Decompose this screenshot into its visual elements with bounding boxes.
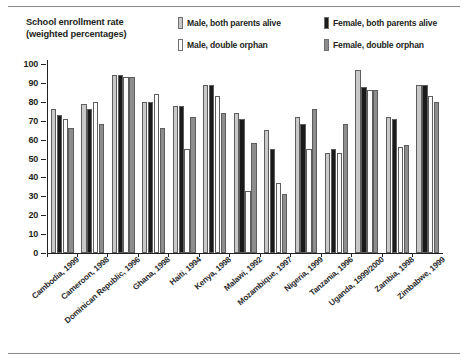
legend-label-male-double-orphan: Male, double orphan bbox=[187, 40, 268, 50]
y-axis-tick-label: 40 bbox=[28, 172, 38, 182]
legend-item-female-double-orphan: Female, double orphan bbox=[324, 39, 424, 51]
bar bbox=[112, 75, 117, 253]
legend-swatch-female-double-orphan bbox=[324, 39, 329, 51]
bar bbox=[184, 149, 189, 253]
bar bbox=[373, 90, 378, 253]
bar bbox=[282, 194, 287, 253]
bar-group bbox=[382, 64, 412, 253]
y-axis-tick-label: 50 bbox=[28, 154, 38, 164]
bar-groups bbox=[47, 64, 443, 253]
y-axis-tick bbox=[41, 121, 46, 122]
bar bbox=[99, 124, 104, 253]
bar bbox=[300, 124, 305, 253]
bar bbox=[325, 153, 330, 253]
chart-title-line-2: (weighted percentages) bbox=[26, 28, 176, 40]
bar bbox=[386, 117, 391, 253]
y-axis-tick-label: 10 bbox=[28, 229, 38, 239]
bar bbox=[173, 106, 178, 253]
x-axis-label: Mozambique, 1997 bbox=[236, 255, 294, 307]
y-axis-tick-label: 0 bbox=[33, 248, 38, 258]
legend-swatch-female-both-parents-alive bbox=[324, 17, 329, 29]
bar-group bbox=[47, 64, 77, 253]
bar bbox=[392, 119, 397, 253]
bar bbox=[295, 117, 300, 253]
bar bbox=[148, 102, 153, 253]
bar bbox=[276, 183, 281, 253]
y-axis-tick-label: 60 bbox=[28, 135, 38, 145]
bar bbox=[234, 113, 239, 253]
x-axis-label: Uganda, 1999/2000 bbox=[327, 255, 386, 308]
bar bbox=[434, 102, 439, 253]
y-axis-tick bbox=[41, 215, 46, 216]
bar bbox=[306, 149, 311, 253]
bottom-divider-rule bbox=[8, 353, 460, 354]
y-axis-tick bbox=[41, 234, 46, 235]
legend-label-female-both-parents-alive: Female, both parents alive bbox=[333, 18, 437, 28]
bar-group bbox=[413, 64, 443, 253]
y-axis-tick-label: 90 bbox=[28, 78, 38, 88]
bar bbox=[215, 96, 220, 253]
y-axis-tick-label: 100 bbox=[24, 59, 38, 69]
bar bbox=[312, 109, 317, 253]
top-divider-rule bbox=[8, 6, 460, 7]
bar bbox=[361, 87, 366, 253]
bar bbox=[355, 70, 360, 253]
bar bbox=[142, 102, 147, 253]
bar-group bbox=[321, 64, 351, 253]
bar bbox=[123, 77, 128, 253]
legend-label-female-double-orphan: Female, double orphan bbox=[333, 40, 424, 50]
bar-group bbox=[169, 64, 199, 253]
bar-group bbox=[291, 64, 321, 253]
bar-group bbox=[260, 64, 290, 253]
bar bbox=[160, 128, 165, 253]
bar bbox=[68, 128, 73, 253]
bar bbox=[57, 115, 62, 253]
bar bbox=[203, 85, 208, 253]
bar bbox=[428, 96, 433, 253]
bar bbox=[404, 145, 409, 253]
x-axis-labels: Cambodia, 1999Cameroon, 1998Dominican Re… bbox=[47, 255, 443, 321]
bar bbox=[209, 85, 214, 253]
bar bbox=[81, 104, 86, 253]
y-axis-tick bbox=[41, 177, 46, 178]
bar bbox=[63, 119, 68, 253]
bar bbox=[398, 147, 403, 253]
y-axis-tick bbox=[41, 64, 46, 65]
legend-item-male-double-orphan: Male, double orphan bbox=[178, 39, 268, 51]
legend-swatch-male-both-parents-alive bbox=[178, 17, 183, 29]
legend-swatch-male-double-orphan bbox=[178, 39, 183, 51]
bar bbox=[129, 77, 134, 253]
plot-area: 0102030405060708090100 bbox=[47, 64, 443, 254]
bar-group bbox=[138, 64, 168, 253]
legend-label-male-both-parents-alive: Male, both parents alive bbox=[187, 18, 281, 28]
chart-title-line-1: School enrollment rate bbox=[26, 16, 176, 28]
bar bbox=[51, 109, 56, 253]
bar bbox=[190, 117, 195, 253]
bar bbox=[367, 90, 372, 253]
bar bbox=[264, 130, 269, 253]
bar bbox=[179, 106, 184, 253]
y-axis-tick-label: 70 bbox=[28, 116, 38, 126]
bar bbox=[422, 85, 427, 253]
y-axis-tick bbox=[41, 159, 46, 160]
legend-item-male-both-parents-alive: Male, both parents alive bbox=[178, 17, 281, 29]
bar bbox=[337, 153, 342, 253]
y-axis-tick bbox=[41, 196, 46, 197]
bar bbox=[343, 124, 348, 253]
x-axis-line bbox=[47, 253, 443, 254]
bar-group bbox=[77, 64, 107, 253]
y-axis-tick bbox=[41, 140, 46, 141]
y-axis-tick-label: 20 bbox=[28, 210, 38, 220]
bar bbox=[251, 143, 256, 253]
chart-header: School enrollment rate (weighted percent… bbox=[26, 16, 446, 62]
y-axis-tick bbox=[41, 253, 46, 254]
bar bbox=[87, 109, 92, 253]
y-axis-tick bbox=[41, 83, 46, 84]
legend-item-female-both-parents-alive: Female, both parents alive bbox=[324, 17, 437, 29]
bar-group bbox=[108, 64, 138, 253]
bar-group bbox=[230, 64, 260, 253]
bar bbox=[93, 102, 98, 253]
y-axis-tick bbox=[41, 102, 46, 103]
bar bbox=[239, 119, 244, 253]
chart-title: School enrollment rate (weighted percent… bbox=[26, 16, 176, 40]
